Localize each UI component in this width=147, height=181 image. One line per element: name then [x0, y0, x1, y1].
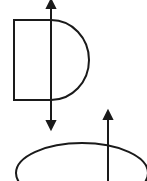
arrow-up-icon: [47, 0, 55, 8]
ellipse: [16, 143, 147, 181]
arrow-down-icon: [47, 121, 55, 129]
arrow-up-icon: [104, 111, 112, 119]
diagram-canvas: [0, 0, 147, 181]
